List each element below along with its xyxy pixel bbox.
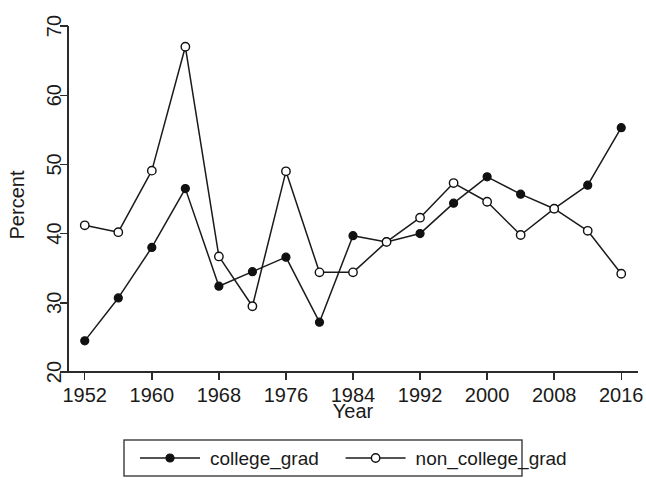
y-axis-title: Percent	[6, 170, 28, 239]
data-point	[517, 190, 525, 198]
data-point	[114, 228, 122, 236]
data-point	[617, 124, 625, 132]
x-tick-label: 2016	[599, 384, 644, 406]
data-point	[114, 294, 122, 302]
data-point	[550, 204, 558, 212]
data-point	[215, 282, 223, 290]
data-point	[349, 268, 357, 276]
chart-container: 203040506070 Percent 1952196019681976198…	[0, 0, 646, 485]
line-chart: 203040506070 Percent 1952196019681976198…	[0, 0, 646, 485]
data-point	[483, 198, 491, 206]
data-point	[584, 181, 592, 189]
chart-background	[0, 0, 646, 485]
data-point	[349, 232, 357, 240]
legend-label-non_college_grad: non_college_grad	[416, 448, 567, 470]
data-point	[248, 302, 256, 310]
data-point	[416, 230, 424, 238]
y-tick-label: 60	[43, 84, 65, 106]
data-point	[450, 199, 458, 207]
y-tick-label: 40	[43, 222, 65, 244]
chart-legend: college_gradnon_college_grad	[124, 440, 567, 476]
data-point	[315, 318, 323, 326]
y-tick-label: 50	[43, 153, 65, 175]
data-point	[449, 179, 457, 187]
data-point	[148, 243, 156, 251]
data-point	[584, 227, 592, 235]
data-point	[81, 221, 89, 229]
data-point	[282, 253, 290, 261]
x-tick-label: 1968	[197, 384, 242, 406]
x-tick-label: 1952	[63, 384, 108, 406]
x-tick-label: 2000	[465, 384, 510, 406]
x-tick-label: 1992	[398, 384, 443, 406]
data-point	[315, 268, 323, 276]
data-point	[516, 231, 524, 239]
data-point	[81, 337, 89, 345]
y-tick-label: 30	[43, 292, 65, 314]
x-tick-label: 1976	[264, 384, 309, 406]
data-point	[282, 167, 290, 175]
legend-label-college_grad: college_grad	[210, 448, 319, 470]
legend-marker-non_college_grad	[371, 454, 379, 462]
data-point	[248, 268, 256, 276]
data-point	[382, 238, 390, 246]
data-point	[416, 213, 424, 221]
data-point	[181, 185, 189, 193]
data-point	[148, 166, 156, 174]
data-point	[181, 43, 189, 51]
legend-marker-college_grad	[166, 454, 174, 462]
y-tick-label: 70	[43, 15, 65, 37]
y-tick-label: 20	[43, 361, 65, 383]
data-point	[617, 270, 625, 278]
x-tick-label: 2008	[532, 384, 577, 406]
x-tick-label: 1960	[130, 384, 175, 406]
data-point	[483, 173, 491, 181]
x-axis-title: Year	[333, 400, 374, 422]
data-point	[215, 252, 223, 260]
